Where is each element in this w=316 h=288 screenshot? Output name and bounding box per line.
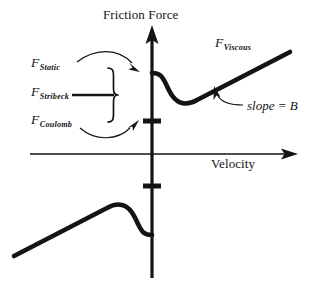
label-f-stribeck: FStribeck [31,85,69,99]
y-axis-label: Friction Force [103,8,178,21]
static-leader-arrow [77,52,132,63]
f-coulomb-subscript: Coulomb [40,120,72,129]
x-axis-label: Velocity [211,157,255,170]
static-arrowhead [129,63,141,73]
f-stribeck-subscript: Stribeck [40,92,69,101]
label-f-viscous: FViscous [215,36,251,50]
f-viscous-subscript: Viscous [224,43,251,52]
label-f-static: FStatic [31,56,60,70]
coulomb-leader-arrow [80,128,130,138]
f-static-subscript: Static [40,63,60,72]
negative-branch-curve [14,204,152,256]
positive-branch-curve [152,52,290,104]
f-stribeck-symbol: F [31,84,39,99]
slope-leader-line [218,96,243,105]
label-slope-b: slope = B [247,99,298,112]
label-f-coulomb: FCoulomb [31,113,72,127]
friction-model-figure: Friction Force Velocity FStatic FStribec… [0,0,316,288]
f-static-symbol: F [31,55,39,70]
f-coulomb-symbol: F [31,112,39,127]
friction-curve-svg [0,0,316,288]
f-viscous-symbol: F [215,35,223,50]
